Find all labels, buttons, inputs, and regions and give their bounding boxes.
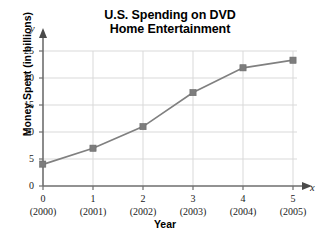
axes bbox=[39, 28, 312, 190]
y-tick-label: 5 bbox=[14, 153, 34, 164]
x-axis-symbol: x bbox=[310, 182, 315, 193]
y-tick-label: 20 bbox=[14, 72, 34, 83]
data-point-marker bbox=[140, 124, 146, 130]
x-tick-year-label: (2004) bbox=[216, 206, 270, 217]
x-tick-label: 3 bbox=[173, 193, 213, 204]
y-tick-label: 0 bbox=[14, 180, 34, 191]
x-tick-label: 0 bbox=[23, 193, 63, 204]
x-tick-label: 2 bbox=[123, 193, 163, 204]
x-tick-year-label: (2002) bbox=[116, 206, 170, 217]
x-tick-year-label: (2000) bbox=[16, 206, 70, 217]
x-tick-year-label: (2005) bbox=[266, 206, 320, 217]
x-tick-label: 5 bbox=[273, 193, 313, 204]
data-point-marker bbox=[290, 57, 296, 63]
x-tick-year-label: (2003) bbox=[166, 206, 220, 217]
x-tick-year-label: (2001) bbox=[66, 206, 120, 217]
data-point-marker bbox=[240, 65, 246, 71]
series-line bbox=[43, 60, 293, 164]
y-tick-label: 25 bbox=[14, 45, 34, 56]
chart-figure: U.S. Spending on DVD Home Entertainment … bbox=[0, 0, 325, 236]
data-point-marker bbox=[40, 161, 46, 167]
data-point-marker bbox=[190, 90, 196, 96]
gridlines-horizontal bbox=[43, 51, 297, 159]
y-tick-label: 15 bbox=[14, 99, 34, 110]
data-point-marker bbox=[90, 145, 96, 151]
x-tick-label: 4 bbox=[223, 193, 263, 204]
data-series bbox=[40, 57, 297, 167]
y-axis-arrowhead bbox=[39, 28, 47, 38]
x-tick-label: 1 bbox=[73, 193, 113, 204]
y-tick-label: 10 bbox=[14, 126, 34, 137]
y-axis-symbol: y bbox=[30, 23, 35, 34]
gridlines-vertical bbox=[93, 51, 293, 186]
